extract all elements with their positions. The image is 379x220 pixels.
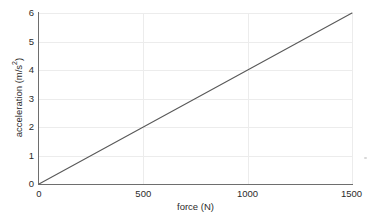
data-line-acceleration: [39, 13, 352, 184]
x-axis-title: force (N): [39, 201, 352, 212]
y-axis-title-exponent: 2: [11, 61, 18, 65]
chart-figure: 6 5 4 3 2 1 0 0 500 1000 1500 force (N) …: [0, 0, 379, 220]
x-tick-label: 1000: [228, 188, 268, 199]
y-axis-title: acceleration (m/s2): [13, 13, 24, 183]
y-axis-title-base: acceleration (m/s: [13, 65, 24, 137]
scan-artifact-speck: [364, 157, 367, 159]
x-tick-label: 1500: [332, 188, 372, 199]
data-series-svg: [0, 0, 379, 220]
x-tick-label: 500: [123, 188, 163, 199]
x-tick-label: 0: [19, 188, 59, 199]
y-axis-title-close: ): [13, 58, 24, 61]
